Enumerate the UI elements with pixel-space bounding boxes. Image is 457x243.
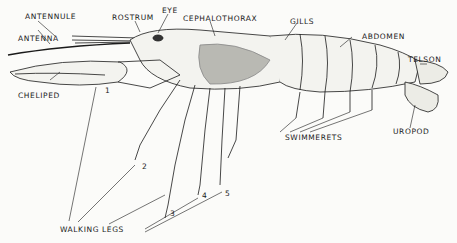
label-uropod: UROPOD (393, 128, 429, 136)
label-rostrum: ROSTRUM (112, 14, 154, 22)
label-abdomen: ABDOMEN (362, 33, 405, 41)
label-antennule: ANTENNULE (25, 13, 76, 21)
label-cheliped: CHELIPED (18, 92, 60, 100)
label-cephalothorax: CEPHALOTHORAX (183, 15, 257, 23)
label-telson: TELSON (408, 56, 441, 64)
label-walking-legs: WALKING LEGS (60, 226, 124, 234)
crayfish-diagram: ANTENNULE ANTENNA ROSTRUM EYE CEPHALOTHO… (0, 0, 457, 243)
leg-number-4: 4 (202, 192, 207, 200)
leg-number-5: 5 (225, 190, 230, 198)
label-gills: GILLS (290, 18, 314, 26)
leg-number-3: 3 (170, 210, 175, 218)
leg-number-2: 2 (142, 163, 147, 171)
label-antenna: ANTENNA (18, 35, 59, 43)
leg-number-1: 1 (105, 87, 110, 95)
label-eye: EYE (162, 7, 178, 15)
label-swimmerets: SWIMMERETS (285, 134, 342, 142)
